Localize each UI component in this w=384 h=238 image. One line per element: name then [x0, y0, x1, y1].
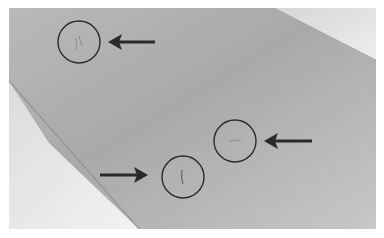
- photo-canvas: [9, 8, 376, 229]
- photograph: [9, 8, 376, 229]
